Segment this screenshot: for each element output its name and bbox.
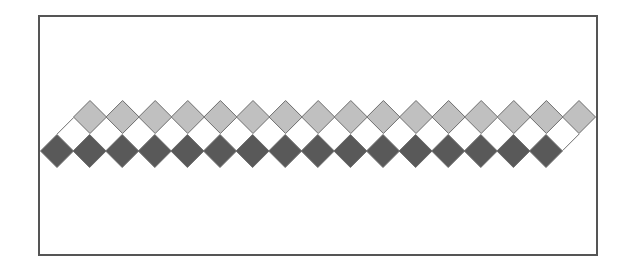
diagram-canvas <box>0 0 627 271</box>
diamond-pattern-strip <box>0 0 627 271</box>
